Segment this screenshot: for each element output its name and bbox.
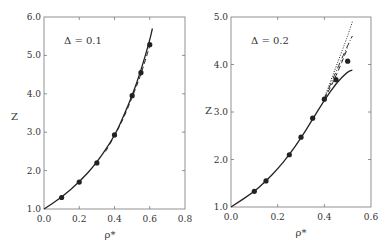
y-tick-label: 5.0 [214, 12, 229, 22]
left-ylabel: Z [11, 111, 18, 122]
y-tick-label: 2.0 [214, 155, 229, 165]
right-chart: 0.00.20.40.61.02.03.04.05.0 Δ = 0.2 Z ρ* [205, 12, 378, 238]
left-xlabel: ρ* [105, 229, 116, 240]
x-tick-label: 0.2 [271, 212, 285, 222]
data-point-marker [252, 189, 257, 194]
y-tick-label: 1.0 [27, 204, 42, 214]
right-annotation: Δ = 0.2 [251, 35, 289, 46]
figure: 0.00.20.40.60.81.02.03.04.05.06.0 Δ = 0.… [0, 0, 391, 249]
data-point-marker [147, 42, 152, 47]
left-series [44, 29, 152, 209]
x-tick-label: 0.4 [107, 214, 122, 224]
data-point-marker [138, 70, 143, 75]
data-point-marker [287, 152, 292, 157]
y-tick-label: 2.0 [27, 166, 42, 176]
right-series [231, 22, 352, 207]
x-tick-label: 0.8 [178, 214, 193, 224]
y-tick-label: 6.0 [27, 12, 42, 22]
y-tick-label: 1.0 [214, 202, 229, 212]
x-tick-label: 0.6 [143, 214, 158, 224]
right-ylabel: Z [205, 105, 212, 116]
x-tick-label: 0.4 [317, 212, 332, 222]
left-chart: 0.00.20.40.60.81.02.03.04.05.06.0 Δ = 0.… [11, 12, 192, 240]
y-tick-label: 4.0 [214, 60, 229, 70]
x-tick-label: 0.0 [37, 214, 52, 224]
solid-curve [231, 70, 352, 207]
y-tick-label: 4.0 [27, 89, 42, 99]
x-tick-label: 0.6 [364, 212, 379, 222]
data-point-marker [130, 93, 135, 98]
data-point-marker [77, 180, 82, 185]
data-point-marker [333, 77, 338, 82]
data-point-marker [112, 132, 117, 137]
data-point-marker [322, 97, 327, 102]
x-tick-label: 0.0 [224, 212, 239, 222]
left-annotation: Δ = 0.1 [64, 35, 102, 46]
solid-curve [44, 29, 152, 209]
x-tick-label: 0.2 [72, 214, 86, 224]
data-point-marker [298, 135, 303, 140]
dashdot-curve [324, 36, 352, 99]
data-point-marker [345, 59, 350, 64]
right-xlabel: ρ* [296, 227, 307, 238]
data-point-marker [310, 116, 315, 121]
data-point-marker [263, 178, 268, 183]
y-tick-label: 3.0 [27, 127, 42, 137]
y-tick-label: 3.0 [214, 107, 229, 117]
data-point-marker [94, 160, 99, 165]
data-point-marker [59, 195, 64, 200]
y-tick-label: 5.0 [27, 50, 42, 60]
